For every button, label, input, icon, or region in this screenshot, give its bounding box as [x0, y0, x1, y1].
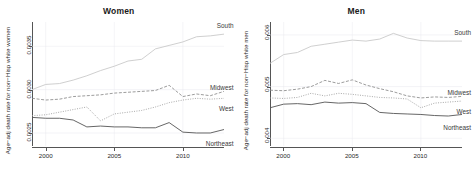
x-tick-mark: [46, 148, 47, 151]
series-line-west: [32, 98, 224, 121]
series-line-midwest: [32, 85, 224, 100]
y-tick-label: 0.0025: [10, 119, 29, 126]
plot-area-women: [32, 22, 224, 146]
y-tick-label: 0.006: [251, 21, 266, 28]
x-tick-mark: [183, 148, 184, 151]
x-tick-label: 2000: [39, 152, 53, 159]
y-tick-mark: [267, 138, 270, 139]
y-axis-label-men: Age−adj death rate for non−Hisp white me…: [240, 0, 252, 180]
y-tick-labels-women: 0.00250.00300.0035: [14, 0, 30, 180]
y-tick-mark: [29, 90, 32, 91]
x-tick-label: 2010: [413, 152, 427, 159]
x-tick-label: 2000: [276, 152, 290, 159]
panel-women: Women Age−adj death rate for non−Hisp wh…: [0, 0, 238, 180]
figure-container: Women Age−adj death rate for non−Hisp wh…: [0, 0, 475, 180]
plot-area-men: [270, 22, 462, 146]
y-axis-label-women: Age−adj death rate for non−Hisp white wo…: [2, 0, 14, 180]
series-label-south: South: [217, 22, 234, 29]
series-line-northeast: [32, 117, 224, 133]
series-label-midwest: Midwest: [448, 89, 471, 96]
y-tick-label: 0.0030: [10, 76, 29, 83]
panel-title-men: Men: [238, 6, 475, 16]
series-label-south: South: [454, 29, 471, 36]
series-label-west: West: [219, 105, 233, 112]
y-tick-label: 0.004: [251, 124, 266, 131]
series-line-northeast: [270, 102, 462, 116]
y-tick-mark: [267, 87, 270, 88]
series-line-west: [270, 93, 462, 107]
series-label-northeast: Northeast: [443, 124, 471, 131]
y-tick-mark: [29, 133, 32, 134]
series-label-midwest: Midwest: [210, 84, 233, 91]
y-tick-mark: [29, 46, 32, 47]
x-axis-line-women: [32, 147, 224, 148]
y-tick-mark: [267, 35, 270, 36]
x-tick-mark: [114, 148, 115, 151]
series-label-northeast: Northeast: [206, 140, 234, 147]
x-tick-mark: [283, 148, 284, 151]
x-tick-label: 2005: [345, 152, 359, 159]
series-line-south: [32, 34, 224, 90]
series-label-west: West: [457, 108, 471, 115]
panel-men: Men Age−adj death rate for non−Hisp whit…: [238, 0, 475, 180]
x-tick-mark: [420, 148, 421, 151]
y-tick-label: 0.0035: [10, 32, 29, 39]
panel-title-women: Women: [0, 6, 238, 16]
x-tick-label: 2005: [107, 152, 121, 159]
x-axis-line-men: [270, 147, 462, 148]
x-tick-mark: [352, 148, 353, 151]
y-tick-labels-men: 0.0040.0050.006: [252, 0, 268, 180]
x-tick-label: 2010: [176, 152, 190, 159]
series-line-midwest: [270, 80, 462, 98]
series-line-south: [270, 33, 462, 63]
y-tick-label: 0.005: [251, 73, 266, 80]
